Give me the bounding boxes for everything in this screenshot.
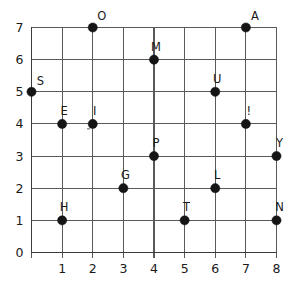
x-tick-label: 5 <box>181 261 189 276</box>
y-axis-tick-labels: 01234567 <box>16 20 24 260</box>
data-point-m <box>149 55 158 64</box>
data-point-a <box>241 23 250 32</box>
data-point-label-s: S <box>37 74 44 88</box>
x-tick-label: 7 <box>242 261 250 276</box>
data-point-y <box>272 151 281 160</box>
data-point-label-a: A <box>251 9 259 23</box>
y-tick-label: 4 <box>16 116 24 131</box>
data-point-u <box>211 87 220 96</box>
data-point-e <box>58 119 67 128</box>
y-tick-label: 0 <box>16 245 24 260</box>
plot-area: 12345678 01234567 SOAMUEI!PYGLHTN <box>0 0 306 284</box>
data-point-label-e: E <box>60 104 67 118</box>
data-point-label-exclamation: ! <box>247 104 252 118</box>
coordinate-grid-chart: 12345678 01234567 SOAMUEI!PYGLHTN <box>0 0 306 284</box>
data-point-label-m: M <box>151 40 161 54</box>
data-point-label-y: Y <box>275 136 284 150</box>
x-tick-label: 3 <box>119 261 127 276</box>
data-point-label-n: N <box>275 200 284 214</box>
y-tick-label: 5 <box>16 84 24 99</box>
y-tick-label: 3 <box>16 149 24 164</box>
data-point-label-u: U <box>213 72 221 86</box>
data-point-label-g: G <box>121 168 130 182</box>
data-point-label-t: T <box>182 200 191 214</box>
x-axis-tick-labels: 12345678 <box>58 261 280 276</box>
x-tick-label: 6 <box>211 261 219 276</box>
x-tick-label: 8 <box>273 261 281 276</box>
y-tick-label: 1 <box>16 213 24 228</box>
stray-speck <box>87 128 90 130</box>
y-tick-label: 6 <box>16 52 24 67</box>
data-point-label-h: H <box>60 200 69 214</box>
x-tick-label: 2 <box>89 261 97 276</box>
data-point-i <box>88 119 97 128</box>
data-point-n <box>272 216 281 225</box>
data-point-label-o: O <box>97 9 106 23</box>
data-point-p <box>149 151 158 160</box>
data-point-label-p: P <box>153 136 160 150</box>
data-point-s <box>27 87 36 96</box>
data-point-label-i: I <box>93 104 96 118</box>
data-point-label-l: L <box>214 168 221 182</box>
data-point-l <box>211 184 220 193</box>
data-point-t <box>180 216 189 225</box>
stray-mark <box>87 128 90 130</box>
data-point-o <box>88 23 97 32</box>
y-tick-label: 2 <box>16 181 24 196</box>
data-point-exclamation <box>241 119 250 128</box>
data-point-h <box>58 216 67 225</box>
data-point-g <box>119 184 128 193</box>
x-tick-label: 1 <box>58 261 66 276</box>
x-tick-label: 4 <box>150 261 158 276</box>
y-tick-label: 7 <box>16 20 24 35</box>
